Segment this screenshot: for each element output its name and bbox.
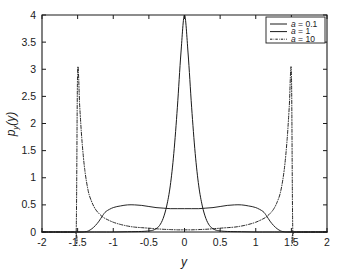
y-tick-label: 1 — [30, 171, 36, 183]
y-tick-label: 4 — [30, 9, 36, 21]
legend-label-2[interactable]: a = 10 — [291, 34, 315, 44]
x-axis-title: y — [180, 255, 188, 269]
y-tick-label: 0 — [30, 226, 36, 238]
curve-a-10 — [42, 67, 327, 244]
y-tick-label: 2.5 — [21, 90, 36, 102]
y-tick-label: 3 — [30, 63, 36, 75]
y-tick-labels: 00.511.522.533.54 — [21, 9, 36, 238]
y-tick-label: 3.5 — [21, 36, 36, 48]
screenshot-root: -2-1.5-1-0.500.511.52 00.511.522.533.54 … — [0, 0, 344, 275]
x-tick-marks — [42, 15, 327, 232]
x-tick-label: -1 — [109, 236, 118, 248]
y-tick-label: 2 — [30, 117, 36, 129]
y-axis-title: py(y) — [4, 112, 20, 138]
svg-text:py(y): py(y) — [4, 112, 20, 138]
data-curves — [42, 15, 327, 244]
y-tick-label: 0.5 — [21, 198, 36, 210]
axes-frame — [42, 15, 327, 232]
x-tick-label: 1.5 — [284, 236, 299, 248]
svg-text:y: y — [180, 255, 188, 269]
curve-a-0-1 — [42, 15, 327, 232]
x-tick-label: 0.5 — [213, 236, 228, 248]
x-tick-label: -0.5 — [140, 236, 158, 248]
x-tick-label: 0 — [182, 236, 188, 248]
y-tick-marks — [42, 15, 327, 232]
x-tick-label: -2 — [37, 236, 46, 248]
x-tick-label: 2 — [324, 236, 330, 248]
chart-figure: -2-1.5-1-0.500.511.52 00.511.522.533.54 … — [0, 0, 344, 275]
legend[interactable]: a = 0.1a = 1a = 10 — [266, 17, 325, 44]
curve-a-1 — [42, 205, 327, 232]
x-tick-label: -1.5 — [69, 236, 87, 248]
chart-svg: -2-1.5-1-0.500.511.52 00.511.522.533.54 … — [0, 0, 344, 275]
x-tick-label: 1 — [253, 236, 259, 248]
x-tick-labels: -2-1.5-1-0.500.511.52 — [37, 236, 330, 248]
y-tick-label: 1.5 — [21, 144, 36, 156]
